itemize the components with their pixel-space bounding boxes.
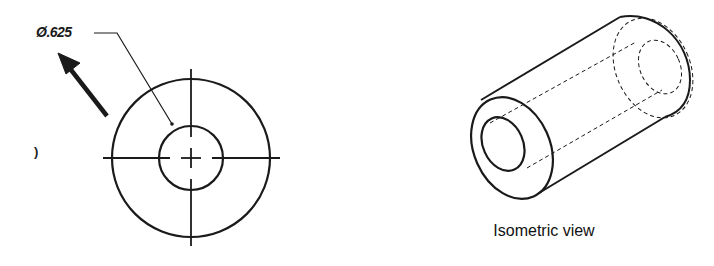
front-outer-ellipse	[456, 84, 569, 212]
bottom-silhouette	[539, 117, 665, 193]
bore-hidden-bottom	[527, 90, 662, 168]
front-view	[58, 33, 280, 246]
back-inner-ellipse-hidden	[630, 33, 689, 100]
view-direction-arrow-shaft	[68, 66, 107, 116]
top-silhouette	[481, 17, 620, 100]
view-direction-arrow-head	[58, 53, 80, 74]
back-outer-arc	[620, 16, 690, 117]
side-mark: )	[34, 144, 38, 159]
isometric-view-caption: Isometric view	[474, 222, 614, 240]
leader-dot	[170, 122, 174, 126]
diameter-dimension-label: Ø.625	[36, 24, 72, 40]
isometric-view	[456, 5, 708, 211]
back-outer-ellipse-hidden	[598, 5, 708, 130]
dimension-leader-line	[94, 33, 172, 124]
front-inner-ellipse	[473, 110, 532, 177]
